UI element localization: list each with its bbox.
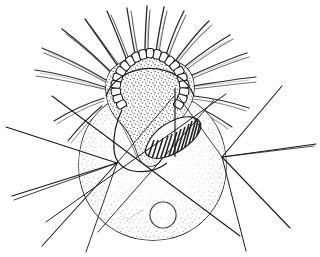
pore xyxy=(150,202,176,228)
figure-root: marine invertebrate larva (anterior view… xyxy=(0,0,320,257)
illustration-canvas xyxy=(0,0,320,257)
pore-stipple xyxy=(150,202,176,228)
